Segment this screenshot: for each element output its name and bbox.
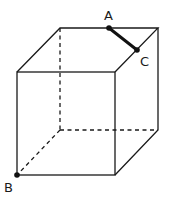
segment-ac [109, 28, 137, 50]
label-c: C [140, 54, 149, 69]
cube-svg: A C B [0, 0, 169, 201]
point-c [134, 47, 140, 53]
cube-diagram: A C B [0, 0, 169, 201]
point-b [14, 172, 20, 178]
label-b: B [4, 180, 13, 195]
hidden-edge-diagonal [17, 130, 60, 175]
label-a: A [104, 8, 113, 23]
point-a [106, 25, 112, 31]
